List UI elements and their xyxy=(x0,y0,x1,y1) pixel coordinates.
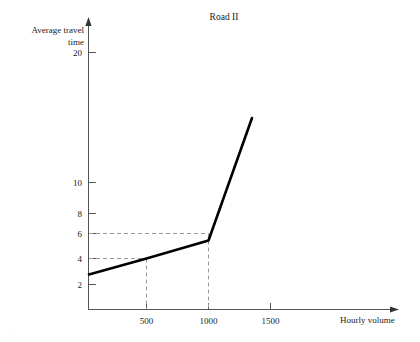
data-series-line xyxy=(89,118,252,275)
chart-figure: Road II Average travel time Hourly volum… xyxy=(0,0,420,342)
y-tick-label-4: 4 xyxy=(78,254,83,264)
y-tick-label-8: 8 xyxy=(78,209,83,219)
page-corner-mark: . xyxy=(12,325,14,331)
chart-title: Road II xyxy=(210,12,239,22)
x-axis xyxy=(89,306,400,312)
y-axis-label-line2: time xyxy=(68,37,84,47)
y-axis-arrow-icon xyxy=(85,17,91,26)
y-tick-label-6: 6 xyxy=(78,229,83,239)
x-axis-label: Hourly volume xyxy=(340,315,395,325)
y-axis xyxy=(85,17,91,310)
x-tick-label-500: 500 xyxy=(140,316,154,326)
y-tick-label-2: 2 xyxy=(78,280,83,290)
x-tick-label-1000: 1000 xyxy=(200,316,219,326)
y-axis-label-line1: Average travel xyxy=(31,25,84,35)
y-tick-label-10: 10 xyxy=(73,178,83,188)
x-tick-label-1500: 1500 xyxy=(262,316,281,326)
y-tick-label-20: 20 xyxy=(73,48,83,58)
y-tick-marks xyxy=(89,53,97,285)
chart-canvas: Road II Average travel time Hourly volum… xyxy=(0,0,420,342)
x-axis-arrow-icon xyxy=(390,306,399,312)
y-tick-labels: 20 10 8 6 4 2 xyxy=(73,48,83,290)
x-tick-labels: 500 1000 1500 xyxy=(140,316,280,326)
